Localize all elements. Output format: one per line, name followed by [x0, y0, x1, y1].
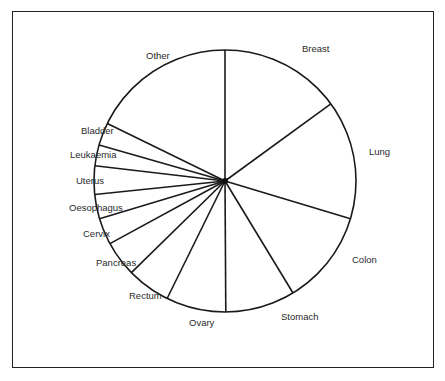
slice-label-colon: Colon — [352, 254, 377, 265]
slice-boundary-rectum — [167, 181, 225, 299]
slice-label-lung: Lung — [369, 146, 390, 157]
slice-label-uterus: Uterus — [76, 175, 104, 186]
slice-label-bladder: Bladder — [81, 125, 114, 136]
slice-label-breast: Breast — [302, 43, 330, 54]
slice-label-stomach: Stomach — [281, 311, 319, 322]
slice-boundary-lung — [225, 104, 331, 181]
slice-label-oesophagus: Oesophagus — [69, 202, 123, 213]
pie-labels: BreastLungColonStomachOvaryRectumPancrea… — [69, 43, 390, 328]
slice-label-ovary: Ovary — [189, 317, 215, 328]
pie-slices — [95, 50, 351, 312]
slice-label-leukaemia: Leukaemia — [70, 149, 117, 160]
slice-boundary-leukaemia — [95, 166, 225, 181]
slice-label-other: Other — [146, 50, 170, 61]
pie-center — [222, 178, 228, 184]
pie-chart: BreastLungColonStomachOvaryRectumPancrea… — [0, 0, 445, 381]
slice-label-pancreas: Pancreas — [96, 257, 136, 268]
slice-boundary-ovary — [225, 181, 226, 312]
slice-label-cervix: Cervix — [83, 228, 110, 239]
slice-label-rectum: Rectum — [129, 290, 162, 301]
